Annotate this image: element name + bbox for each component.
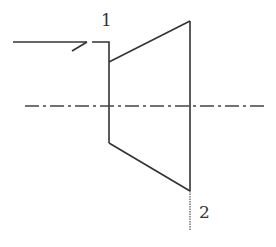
inlet-arrow xyxy=(13,42,87,51)
diagram-svg: 1 2 xyxy=(0,0,276,247)
station-1-label: 1 xyxy=(101,10,112,30)
turbine-diagram: 1 2 xyxy=(0,0,276,247)
station-2-label: 2 xyxy=(199,202,210,222)
